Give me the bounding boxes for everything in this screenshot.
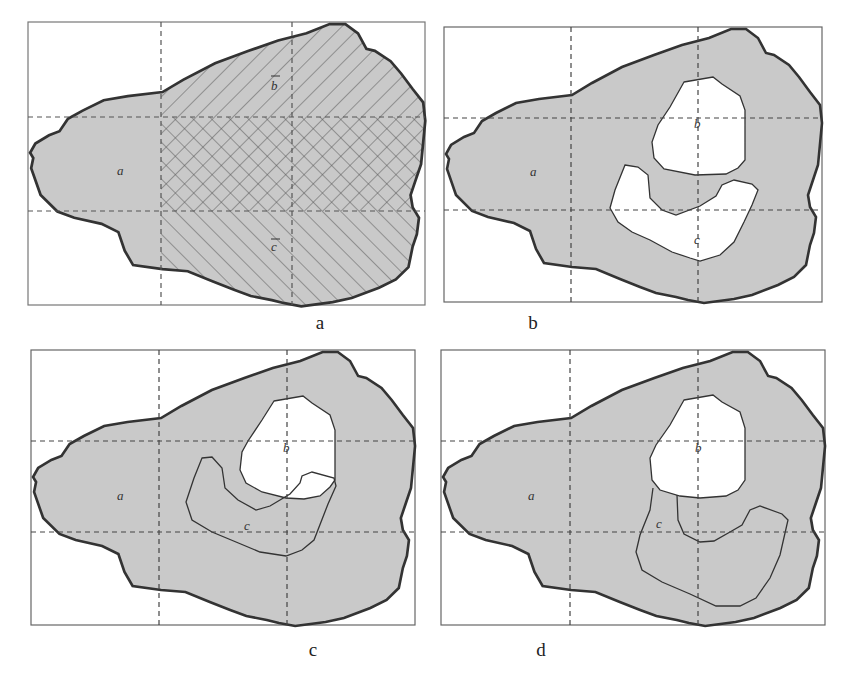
panel-d-label-a: a	[528, 488, 535, 503]
panel-c: a b c	[31, 350, 415, 626]
panel-c-label-a: a	[117, 488, 124, 503]
panel-a-label-a: a	[117, 163, 124, 178]
panel-a: a b c	[28, 0, 431, 317]
panel-a-label-not-b: b	[271, 78, 278, 93]
panel-d-label-c: c	[656, 516, 662, 531]
panel-d-label-b: b	[695, 440, 702, 455]
set-diagram-figure: a b c a b c	[0, 0, 850, 680]
panel-b-label-a: a	[530, 164, 537, 179]
panel-b-label-b: b	[694, 116, 701, 131]
figure-svg: a b c a b c	[0, 0, 850, 680]
panel-b: a b c	[444, 27, 822, 303]
panel-b-caption: b	[528, 312, 538, 334]
panel-d: a b c	[441, 350, 825, 626]
panel-c-label-c: c	[244, 518, 250, 533]
panel-a-label-not-c: c	[271, 239, 277, 254]
panel-c-caption: c	[309, 639, 317, 661]
panel-d-caption: d	[536, 639, 546, 661]
panel-b-label-c: c	[694, 232, 700, 247]
panel-c-label-b: b	[283, 440, 290, 455]
panel-a-caption: a	[316, 312, 324, 334]
